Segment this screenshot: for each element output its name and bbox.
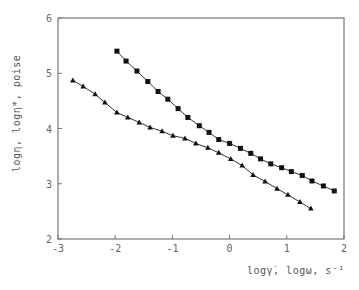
x-tick-label: 0 bbox=[227, 243, 233, 254]
square-marker-icon bbox=[248, 151, 253, 156]
square-marker-icon bbox=[227, 141, 232, 146]
triangle-marker-icon bbox=[80, 84, 86, 89]
series-squares bbox=[114, 49, 336, 194]
chart: -3-2-1012 23456 logγ̇, logω, s⁻¹ logη, l… bbox=[0, 0, 359, 290]
plot-frame bbox=[58, 18, 344, 239]
square-marker-icon bbox=[207, 130, 212, 135]
data-series bbox=[70, 49, 337, 211]
square-marker-icon bbox=[197, 123, 202, 128]
y-tick-label: 6 bbox=[46, 13, 52, 24]
square-marker-icon bbox=[176, 106, 181, 111]
triangle-marker-icon bbox=[70, 77, 76, 82]
series-line bbox=[117, 51, 334, 191]
x-axis-label: logγ̇, logω, s⁻¹ bbox=[247, 265, 345, 276]
square-marker-icon bbox=[279, 165, 284, 170]
triangle-marker-icon bbox=[114, 109, 120, 114]
square-marker-icon bbox=[321, 183, 326, 188]
x-tick-label: 2 bbox=[341, 243, 347, 254]
square-marker-icon bbox=[332, 188, 337, 193]
square-marker-icon bbox=[145, 79, 150, 84]
triangle-marker-icon bbox=[239, 163, 245, 168]
square-marker-icon bbox=[300, 173, 305, 178]
triangle-marker-icon bbox=[274, 186, 280, 191]
square-marker-icon bbox=[238, 146, 243, 151]
square-marker-icon bbox=[268, 161, 273, 166]
triangle-marker-icon bbox=[262, 179, 268, 184]
plot-border bbox=[58, 18, 344, 239]
triangle-marker-icon bbox=[297, 199, 303, 204]
x-axis-ticks: -3-2-1012 bbox=[52, 235, 347, 254]
y-tick-label: 2 bbox=[46, 234, 52, 245]
x-tick-label: -2 bbox=[109, 243, 121, 254]
y-tick-label: 4 bbox=[46, 124, 52, 135]
series-triangles bbox=[70, 77, 314, 210]
y-axis-ticks: 23456 bbox=[46, 13, 62, 245]
triangle-marker-icon bbox=[308, 206, 314, 211]
x-tick-label: 1 bbox=[284, 243, 290, 254]
y-tick-label: 3 bbox=[46, 179, 52, 190]
y-axis-label: logη, logη*, poise bbox=[11, 55, 22, 172]
x-tick-label: -3 bbox=[52, 243, 64, 254]
triangle-marker-icon bbox=[285, 192, 291, 197]
square-marker-icon bbox=[289, 169, 294, 174]
x-tick-label: -1 bbox=[166, 243, 178, 254]
square-marker-icon bbox=[124, 59, 129, 64]
square-marker-icon bbox=[258, 156, 263, 161]
square-marker-icon bbox=[216, 137, 221, 142]
y-tick-label: 5 bbox=[46, 68, 52, 79]
square-marker-icon bbox=[134, 69, 139, 74]
square-marker-icon bbox=[165, 97, 170, 102]
triangle-marker-icon bbox=[92, 91, 98, 96]
square-marker-icon bbox=[309, 178, 314, 183]
square-marker-icon bbox=[156, 89, 161, 94]
square-marker-icon bbox=[185, 115, 190, 120]
square-marker-icon bbox=[114, 49, 119, 54]
